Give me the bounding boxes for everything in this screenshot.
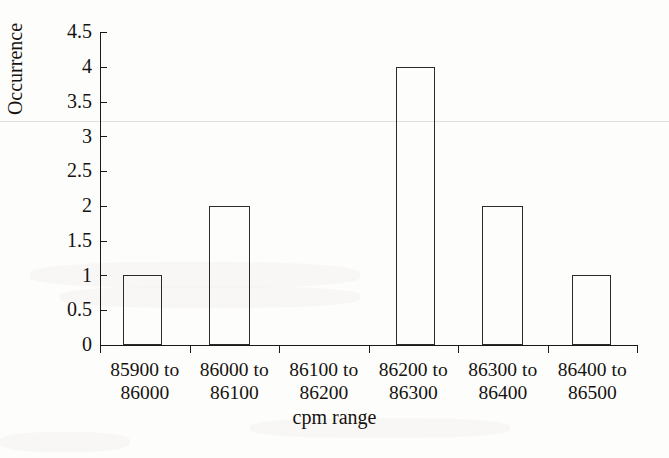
y-tick-label-4: 4 bbox=[40, 55, 92, 78]
y-tick-1 bbox=[100, 275, 107, 276]
y-axis-line bbox=[100, 32, 101, 345]
x-label-line-2: 86400 bbox=[458, 381, 548, 404]
scan-blot bbox=[0, 432, 130, 452]
x-label-line-2: 86300 bbox=[369, 381, 459, 404]
bar-85900-86000 bbox=[123, 275, 162, 345]
x-label-line-1: 86200 to bbox=[369, 358, 459, 381]
y-tick-3.5 bbox=[100, 102, 107, 103]
y-tick-label-1: 1 bbox=[40, 264, 92, 287]
x-label-86300-86400: 86300 to 86400 bbox=[458, 358, 548, 404]
y-tick-1.5 bbox=[100, 241, 107, 242]
x-tick-1 bbox=[190, 345, 191, 353]
x-label-86000-86100: 86000 to 86100 bbox=[190, 358, 280, 404]
x-label-86100-86200: 86100 to 86200 bbox=[279, 358, 369, 404]
y-tick-label-3: 3 bbox=[40, 125, 92, 148]
y-tick-4.5 bbox=[100, 32, 107, 33]
x-tick-0 bbox=[100, 345, 101, 353]
y-axis-title: Occurrence bbox=[4, 0, 27, 154]
x-label-line-2: 86200 bbox=[279, 381, 369, 404]
y-tick-label-0: 0 bbox=[40, 333, 92, 356]
x-axis-title: cpm range bbox=[0, 406, 669, 429]
y-tick-0.5 bbox=[100, 310, 107, 311]
x-label-line-1: 86000 to bbox=[190, 358, 280, 381]
y-tick-2.5 bbox=[100, 171, 107, 172]
y-tick-0 bbox=[100, 345, 107, 346]
x-label-line-1: 86400 to bbox=[548, 358, 638, 381]
x-label-line-2: 86000 bbox=[100, 381, 190, 404]
y-tick-label-4.5: 4.5 bbox=[40, 20, 92, 43]
y-tick-label-3.5: 3.5 bbox=[40, 90, 92, 113]
x-tick-4 bbox=[458, 345, 459, 353]
x-tick-6 bbox=[637, 345, 638, 353]
y-tick-label-0.5: 0.5 bbox=[40, 298, 92, 321]
histogram-figure: 0 0.5 1 1.5 2 2.5 3 3.5 4 4.5 85900 to 8… bbox=[0, 0, 669, 458]
y-tick-2 bbox=[100, 206, 107, 207]
y-tick-4 bbox=[100, 67, 107, 68]
x-tick-5 bbox=[548, 345, 549, 353]
x-label-line-2: 86100 bbox=[190, 381, 280, 404]
x-label-86200-86300: 86200 to 86300 bbox=[369, 358, 459, 404]
bar-86000-86100 bbox=[209, 206, 250, 345]
x-tick-2 bbox=[279, 345, 280, 353]
y-tick-label-2: 2 bbox=[40, 194, 92, 217]
bar-86400-86500 bbox=[572, 275, 611, 345]
y-tick-3 bbox=[100, 136, 107, 137]
x-label-line-1: 86300 to bbox=[458, 358, 548, 381]
y-tick-label-1.5: 1.5 bbox=[40, 229, 92, 252]
x-label-86400-86500: 86400 to 86500 bbox=[548, 358, 638, 404]
x-tick-3 bbox=[369, 345, 370, 353]
x-label-line-1: 85900 to bbox=[100, 358, 190, 381]
x-label-line-2: 86500 bbox=[548, 381, 638, 404]
bar-86300-86400 bbox=[482, 206, 523, 345]
x-label-line-1: 86100 to bbox=[279, 358, 369, 381]
bar-86200-86300 bbox=[396, 67, 435, 345]
y-tick-label-2.5: 2.5 bbox=[40, 159, 92, 182]
x-label-85900-86000: 85900 to 86000 bbox=[100, 358, 190, 404]
